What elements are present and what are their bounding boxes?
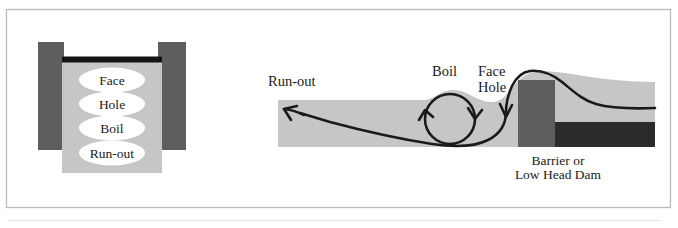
- plan-zone-hole: Hole: [79, 92, 145, 117]
- plan-left-bank: [38, 42, 64, 150]
- caption-line-2: Low Head Dam: [515, 167, 602, 182]
- plan-zone-hole-label: Hole: [99, 97, 125, 112]
- plan-zone-run-out-label: Run-out: [90, 146, 135, 161]
- label-face: Face: [478, 63, 505, 79]
- low-head-dam-figure: Face Hole Boil Run-out: [0, 0, 678, 228]
- label-run-out: Run-out: [268, 73, 316, 89]
- caption-line-1: Barrier or: [532, 153, 585, 168]
- plan-zone-boil-label: Boil: [100, 121, 124, 136]
- plan-zone-boil: Boil: [79, 116, 145, 141]
- plan-zone-run-out: Run-out: [79, 141, 145, 166]
- plan-zone-face-label: Face: [99, 73, 124, 88]
- label-hole: Hole: [478, 79, 506, 95]
- plan-zone-face: Face: [79, 68, 145, 93]
- label-boil: Boil: [432, 63, 457, 79]
- plan-right-bank: [158, 42, 186, 150]
- dam-block: [518, 80, 555, 147]
- figure-container: Face Hole Boil Run-out: [0, 0, 678, 228]
- riverbed-dark: [555, 122, 655, 147]
- plan-dam-crest: [62, 57, 162, 63]
